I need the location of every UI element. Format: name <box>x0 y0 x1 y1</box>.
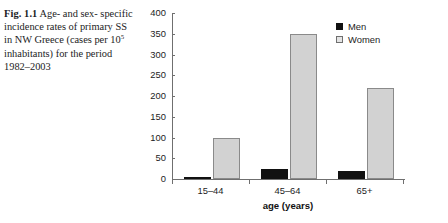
figure-caption: Fig. 1.1 Age- and sex- specific incidenc… <box>4 7 136 73</box>
legend-swatch-women-icon <box>336 36 343 43</box>
bar-women-2 <box>290 34 317 179</box>
figure-number: Fig. 1.1 <box>4 8 37 19</box>
y-axis-tick-label: 350 <box>150 28 166 39</box>
x-axis-tick-mark <box>172 180 173 184</box>
x-axis-tick-label: 15–44 <box>172 185 249 196</box>
legend-item-women: Women <box>336 33 380 46</box>
y-axis-tick-label: 400 <box>150 7 166 18</box>
caption-line-4-pre: (cases per 10 <box>66 34 120 45</box>
bar-group <box>250 13 327 179</box>
x-axis-tick-label: 65+ <box>326 185 403 196</box>
y-axis-tick-label: 100 <box>150 132 166 143</box>
bar-group <box>173 13 250 179</box>
legend-label-men: Men <box>348 21 366 32</box>
y-axis-tick-label: 250 <box>150 69 166 80</box>
y-axis-tick-label: 200 <box>150 90 166 101</box>
x-axis-tick-label: 45–64 <box>249 185 326 196</box>
bar-men-3 <box>338 171 365 179</box>
bar-men-1 <box>184 177 211 179</box>
caption-line-1: Age- and sex- <box>39 8 97 19</box>
chart-legend: Men Women <box>336 20 380 46</box>
y-axis-tick-label: 50 <box>156 152 166 163</box>
legend-item-men: Men <box>336 20 380 33</box>
legend-swatch-men-icon <box>336 23 343 30</box>
bar-women-1 <box>213 138 240 180</box>
figure-page: Fig. 1.1 Age- and sex- specific incidenc… <box>0 0 448 223</box>
x-axis-tick-mark <box>403 180 404 184</box>
y-axis-tick-label: 150 <box>150 111 166 122</box>
x-axis-tick-mark <box>326 180 327 184</box>
bar-chart: 050100150200250300350400 15–4445–6465+ a… <box>136 4 444 219</box>
legend-label-women: Women <box>348 34 380 45</box>
y-axis-tick-label: 300 <box>150 49 166 60</box>
y-axis-tick-label: 0 <box>161 173 166 184</box>
bar-men-2 <box>261 169 288 179</box>
caption-exponent: 5 <box>121 33 124 40</box>
caption-line-4-post: inhabitants) <box>4 48 53 59</box>
x-axis-title: age (years) <box>172 200 404 211</box>
bar-women-3 <box>367 88 394 179</box>
x-axis-tick-mark <box>249 180 250 184</box>
